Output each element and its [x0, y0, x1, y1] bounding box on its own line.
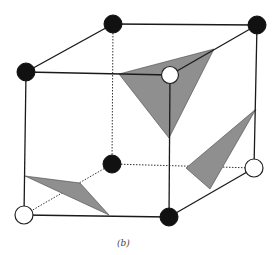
- upper-plane: [119, 49, 214, 138]
- atom-back-top-left: [104, 15, 122, 33]
- atom-front-top-right: [162, 67, 179, 84]
- left-plane: [25, 176, 109, 215]
- unit-cell-diagram: (b): [0, 0, 277, 255]
- atom-back-bottom-left: [103, 155, 121, 173]
- edge-top-left: [26, 24, 113, 72]
- edge-back-top: [113, 24, 257, 25]
- right-plane: [186, 109, 256, 189]
- atom-back-bottom-right: [245, 159, 263, 177]
- edge-front-left: [24, 72, 26, 215]
- hidden-edge-back-vertical: [112, 24, 113, 164]
- atom-back-top-right: [248, 16, 266, 34]
- atom-front-top-left: [17, 63, 35, 81]
- edge-back-right: [254, 25, 257, 168]
- atom-front-bottom-left: [15, 206, 33, 224]
- figure-caption: (b): [117, 238, 130, 248]
- edge-top-right: [170, 25, 257, 75]
- atom-front-bottom-right: [160, 208, 178, 226]
- edge-front-bottom: [24, 215, 169, 217]
- hidden-edge-back-bottom: [112, 164, 254, 168]
